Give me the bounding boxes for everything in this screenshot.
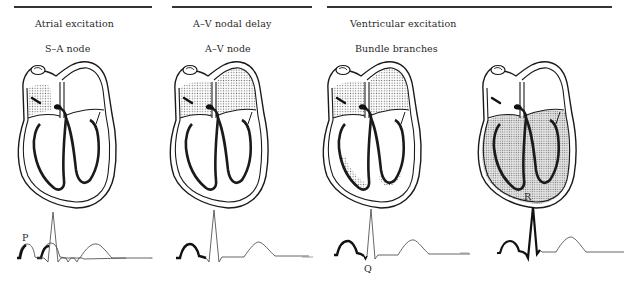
ecg-trace-3: [302, 209, 470, 259]
heart-panel-4: [478, 62, 576, 208]
heart-panel-3: [323, 62, 421, 208]
excited-region-septum-edges: [339, 156, 367, 190]
ecg-label-q: Q: [364, 263, 372, 274]
heart-panel-2: [170, 62, 268, 208]
heart-panel-1: [18, 62, 116, 208]
ecg-trace-2: [150, 210, 309, 262]
ecg-trace-1: [17, 212, 152, 262]
ecg-label-r: R: [524, 191, 531, 202]
ecg-label-p: P: [22, 232, 28, 243]
excited-region-sa: [28, 85, 52, 116]
diagram-canvas: [0, 0, 635, 284]
ecg-trace-4: [460, 207, 624, 258]
excited-region-atria-left: [179, 81, 212, 118]
excited-region-atria-left: [332, 81, 365, 118]
